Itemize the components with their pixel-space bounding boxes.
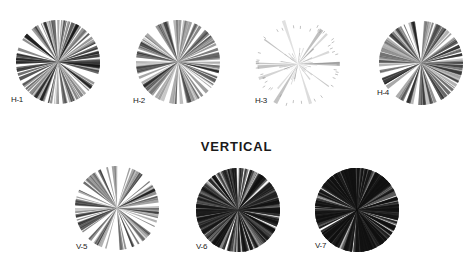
section-heading-vertical: VERTICAL	[0, 139, 473, 154]
rose-v-5	[75, 166, 159, 250]
label-v7: V-7	[315, 241, 326, 250]
label-h1: H-1	[11, 95, 23, 104]
rose-diagram-figure: H-1 H-2 H-3 H-4 V-5 V-6 V-7 VERTICAL	[0, 0, 473, 260]
rose-h-2	[136, 20, 220, 104]
label-v6: V-6	[196, 242, 207, 251]
rose-h-3	[256, 20, 340, 106]
label-h2: H-2	[133, 96, 145, 105]
label-h4: H-4	[377, 88, 389, 97]
rose-v-6	[196, 168, 280, 252]
label-v5: V-5	[76, 242, 87, 251]
rose-diagrams-canvas	[0, 0, 473, 260]
label-h3: H-3	[255, 96, 267, 105]
rose-v-7	[315, 168, 399, 252]
rose-h-4	[379, 21, 463, 105]
rose-h-1	[16, 20, 100, 104]
